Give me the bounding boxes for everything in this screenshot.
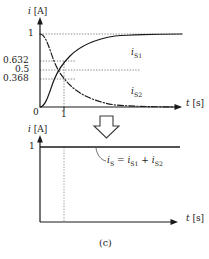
series-label-is-sum: iS = iS1 + iS2 <box>107 156 163 167</box>
curve-is2 <box>40 34 182 107</box>
y-tick-label-0368: 0.368 <box>3 74 29 83</box>
x-axis-arrow-bottom <box>171 219 179 225</box>
series-label-is2: iS2 <box>131 87 142 98</box>
down-arrow-icon <box>94 116 119 138</box>
series-label-is1: iS1 <box>131 48 142 59</box>
x-axis-label-bottom: t [s] <box>186 214 204 223</box>
y-tick-label-1-bottom: 1 <box>29 142 35 151</box>
top-chart <box>37 17 182 110</box>
y-axis-label-top: i [A] <box>28 7 47 16</box>
y-axis-label-bottom: i [A] <box>28 125 47 134</box>
y-axis-arrow-top <box>37 17 43 25</box>
x-tick-label-1-top: 1 <box>61 110 67 119</box>
origin-label-top: 0 <box>33 108 39 117</box>
leader-line-is-sum <box>96 148 106 161</box>
curve-is1 <box>40 34 182 107</box>
y-tick-label-1-top: 1 <box>28 29 34 38</box>
y-axis-arrow-bottom <box>37 135 43 143</box>
x-axis-label-top: t [s] <box>186 99 204 108</box>
figure-caption: (c) <box>99 238 112 248</box>
bottom-chart <box>37 135 180 225</box>
